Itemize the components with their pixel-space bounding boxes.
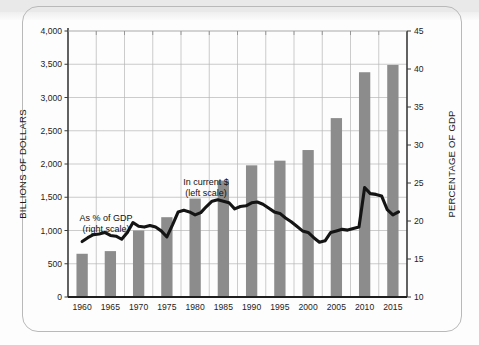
tick-label-right: 30 bbox=[414, 140, 424, 150]
axis-title-left: BILLIONS OF DOLLARS bbox=[17, 109, 28, 218]
bar bbox=[331, 118, 342, 297]
bar bbox=[246, 165, 257, 297]
line-annotation-line1: As % of GDP bbox=[79, 213, 132, 223]
bars-annotation-line2: (left scale) bbox=[185, 188, 227, 198]
tick-label-x: 1980 bbox=[186, 302, 205, 312]
tick-label-x: 1975 bbox=[157, 302, 176, 312]
bar bbox=[76, 254, 87, 297]
bar bbox=[359, 72, 370, 297]
line-annotation-line2: (right scale) bbox=[82, 224, 129, 234]
tick-label-left: 2,000 bbox=[40, 159, 62, 169]
tick-label-x: 1990 bbox=[242, 302, 261, 312]
chart-page: 05001,0001,5002,0002,5003,0003,5004,0001… bbox=[0, 0, 479, 345]
tick-label-x: 2010 bbox=[355, 302, 374, 312]
tick-label-x: 1985 bbox=[214, 302, 233, 312]
tick-label-right: 10 bbox=[414, 292, 424, 302]
tick-label-left: 3,500 bbox=[40, 59, 62, 69]
chart-svg: 05001,0001,5002,0002,5003,0003,5004,0001… bbox=[0, 0, 479, 345]
tick-label-x: 2005 bbox=[327, 302, 346, 312]
tick-label-x: 1970 bbox=[129, 302, 148, 312]
bar bbox=[387, 65, 398, 297]
bar bbox=[218, 181, 229, 297]
axis-title-right: PERCENTAGE OF GDP bbox=[446, 110, 457, 217]
tick-label-left: 500 bbox=[48, 259, 63, 269]
tick-label-x: 2015 bbox=[383, 302, 402, 312]
tick-label-x: 1995 bbox=[270, 302, 289, 312]
tick-label-left: 1,500 bbox=[40, 192, 62, 202]
bar bbox=[274, 161, 285, 297]
tick-label-right: 35 bbox=[414, 102, 424, 112]
tick-label-right: 25 bbox=[414, 178, 424, 188]
tick-label-right: 45 bbox=[414, 26, 424, 36]
tick-label-x: 2000 bbox=[299, 302, 318, 312]
bar bbox=[105, 251, 116, 297]
tick-label-left: 3,000 bbox=[40, 93, 62, 103]
tick-label-left: 2,500 bbox=[40, 126, 62, 136]
tick-label-right: 40 bbox=[414, 64, 424, 74]
tick-label-left: 4,000 bbox=[40, 26, 62, 36]
tick-label-right: 15 bbox=[414, 254, 424, 264]
tick-label-x: 1965 bbox=[101, 302, 120, 312]
bar bbox=[302, 150, 313, 297]
tick-label-left: 1,000 bbox=[40, 226, 62, 236]
tick-label-right: 20 bbox=[414, 216, 424, 226]
bars-annotation-line1: In current $ bbox=[183, 177, 229, 187]
tick-label-left: 0 bbox=[57, 292, 62, 302]
tick-label-x: 1960 bbox=[73, 302, 92, 312]
bar bbox=[133, 231, 144, 298]
chart-figure: 05001,0001,5002,0002,5003,0003,5004,0001… bbox=[0, 0, 479, 345]
